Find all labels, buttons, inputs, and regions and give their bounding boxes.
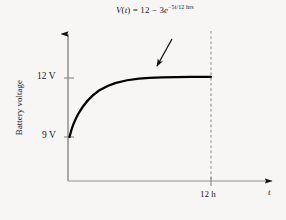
equation-label: V(t) = 12 − 3e−5t/12 hrs <box>116 6 194 15</box>
y-axis-title: Battery voltage <box>15 68 24 148</box>
y-tick-label-12v: 12 V <box>37 72 56 82</box>
x-tick-label-12h: 12 h <box>200 190 216 199</box>
annotation-arrow <box>157 39 172 66</box>
equation-exponent: −5t/12 hrs <box>168 4 194 10</box>
x-axis-title: t <box>268 188 271 197</box>
battery-voltage-figure: V(t) = 12 − 3e−5t/12 hrs 12 V 9 V 12 h t… <box>0 0 286 220</box>
equation-rhs-head: = 12 − 3 <box>130 5 164 15</box>
y-tick-label-9v: 9 V <box>42 131 56 141</box>
voltage-curve <box>70 77 212 137</box>
chart-canvas <box>0 0 286 220</box>
